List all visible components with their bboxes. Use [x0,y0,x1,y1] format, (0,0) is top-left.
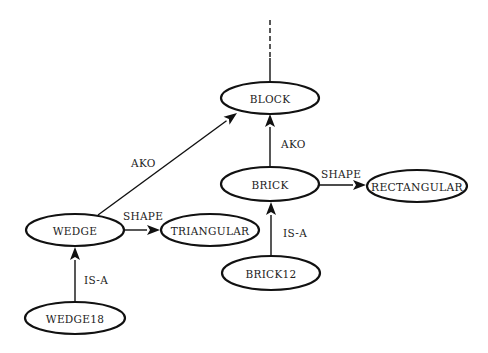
edges-layer [70,113,366,302]
edge-labels-layer: AKOAKOSHAPESHAPEIS-AIS-A [84,138,361,286]
arrowhead-icon [266,202,276,215]
edge-label-ako: AKO [130,157,156,169]
arrowhead-icon [70,247,80,260]
edge-wedge18-to-wedge [70,247,80,302]
node-wedge: WEDGE [26,214,124,246]
edge-label-is-a: IS-A [283,227,307,239]
node-block: BLOCK [221,82,319,114]
node-brick: BRICK [221,167,319,201]
arrowhead-icon [147,225,160,235]
node-wedge18: WEDGE18 [25,302,125,334]
edge-wedge-to-triangular [124,225,160,235]
node-label: BLOCK [250,93,291,105]
node-rectangular: RECTANGULAR [367,170,467,202]
edge-label-ako: AKO [280,138,306,150]
arrowhead-icon [265,114,275,127]
node-triangular: TRIANGULAR [161,214,259,246]
edge-brick12-to-brick [266,202,276,256]
semantic-network-diagram: BLOCKBRICKRECTANGULARWEDGETRIANGULARBRIC… [0,0,488,353]
edge-brick-to-rectangular [319,180,366,190]
edge-line [98,121,227,215]
node-label: WEDGE18 [46,313,104,325]
arrowhead-icon [224,113,237,125]
edge-label-shape: SHAPE [123,210,163,222]
nodes-layer: BLOCKBRICKRECTANGULARWEDGETRIANGULARBRIC… [25,82,467,334]
node-label: BRICK [251,179,288,191]
edge-brick-to-block [265,114,275,167]
node-label: BRICK12 [245,268,296,280]
node-brick12: BRICK12 [222,256,320,290]
node-label: WEDGE [53,225,97,237]
node-label: RECTANGULAR [371,181,464,193]
arrowhead-icon [353,180,366,190]
node-label: TRIANGULAR [171,225,250,237]
edge-label-is-a: IS-A [84,274,108,286]
edge-label-shape: SHAPE [321,168,361,180]
edge-wedge-to-block [98,113,237,215]
